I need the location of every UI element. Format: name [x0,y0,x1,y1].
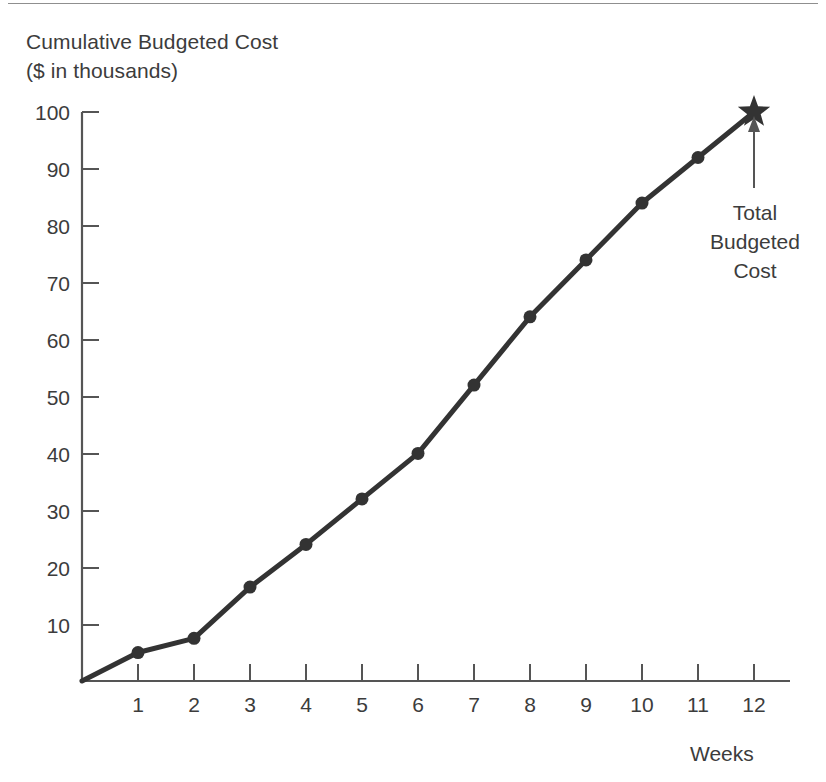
x-tick-label-9: 9 [580,693,592,716]
x-tick-label-3: 3 [244,693,256,716]
data-point-week-10 [636,197,649,210]
x-tick-label-8: 8 [524,693,536,716]
y-tick-label-80: 80 [47,215,70,238]
data-point-week-9 [580,253,593,266]
x-axis-ticks [138,664,754,681]
y-axis-ticks [82,112,99,625]
x-tick-label-11: 11 [687,693,709,716]
y-tick-label-40: 40 [47,443,70,466]
data-point-week-1 [132,646,145,659]
x-axis-label: Weeks [690,742,754,766]
annotation-arrow-icon [748,116,760,188]
chart-canvas: 100 90 80 70 60 50 40 30 20 10 1 2 3 4 [0,0,826,782]
x-tick-label-12: 12 [742,693,765,716]
y-tick-label-30: 30 [47,500,70,523]
x-tick-label-4: 4 [300,693,312,716]
y-tick-label-50: 50 [47,386,70,409]
y-tick-label-10: 10 [47,614,70,637]
chart-figure: Cumulative Budgeted Cost ($ in thousands… [0,0,826,782]
data-point-week-4 [300,538,313,551]
y-tick-label-90: 90 [47,158,70,181]
annotation-total-budgeted-cost: Total Budgeted Cost [690,198,820,285]
x-tick-label-2: 2 [188,693,200,716]
y-tick-label-60: 60 [47,329,70,352]
y-tick-label-20: 20 [47,557,70,580]
data-point-week-3 [244,581,257,594]
series-line-cumulative-budgeted-cost [82,112,754,681]
data-point-week-11 [692,151,705,164]
data-point-week-8 [524,310,537,323]
y-tick-label-100: 100 [35,101,70,124]
data-point-week-2 [188,632,201,645]
y-tick-label-70: 70 [47,272,70,295]
data-point-week-6 [412,447,425,460]
data-point-week-5 [356,492,369,505]
x-tick-label-10: 10 [630,693,653,716]
data-point-week-7 [468,379,481,392]
x-tick-label-5: 5 [356,693,368,716]
x-tick-label-6: 6 [412,693,424,716]
x-tick-label-7: 7 [468,693,480,716]
x-tick-label-1: 1 [132,693,144,716]
